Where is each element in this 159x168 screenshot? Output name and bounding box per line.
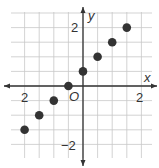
data-point [93, 53, 102, 62]
x-axis-left-arrow-icon [4, 84, 10, 89]
y-axis-down-arrow-icon [81, 160, 86, 166]
data-point [123, 23, 132, 32]
data-point [108, 38, 117, 47]
x-axis-label: x [143, 70, 151, 85]
data-point [35, 111, 44, 120]
grid [11, 12, 152, 158]
x-axis-right-arrow-icon [151, 84, 157, 89]
y-axis-label: y [87, 8, 96, 23]
data-points [20, 23, 131, 134]
x-tick-label-2: 2 [136, 90, 143, 105]
y-tick-label-2: 2 [71, 20, 78, 35]
data-point [50, 96, 59, 105]
origin-label: O [69, 89, 79, 104]
axes [4, 7, 157, 166]
scatter-plot: y x O 2 2 2 −2 [0, 0, 159, 168]
data-point [79, 67, 88, 76]
y-tick-label-neg2: −2 [61, 138, 76, 153]
data-point [64, 82, 73, 91]
data-point [20, 126, 29, 135]
x-tick-label-neg2: 2 [21, 90, 28, 105]
y-axis-up-arrow-icon [81, 7, 86, 13]
